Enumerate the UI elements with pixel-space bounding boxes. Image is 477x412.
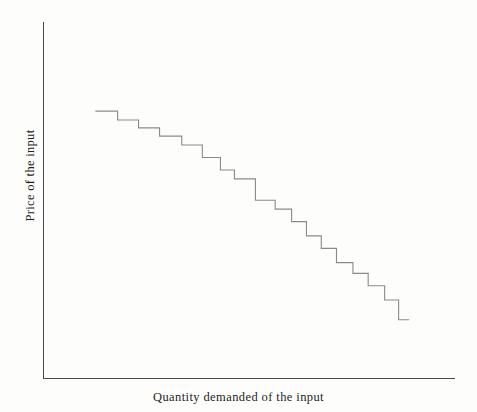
chart-figure: Price of the input Quantity demanded of … <box>0 0 477 412</box>
y-axis-label: Price of the input <box>23 86 38 266</box>
x-axis-label: Quantity demanded of the input <box>0 390 477 405</box>
demand-curve-step-line <box>95 111 409 320</box>
chart-plot-area <box>0 0 477 412</box>
